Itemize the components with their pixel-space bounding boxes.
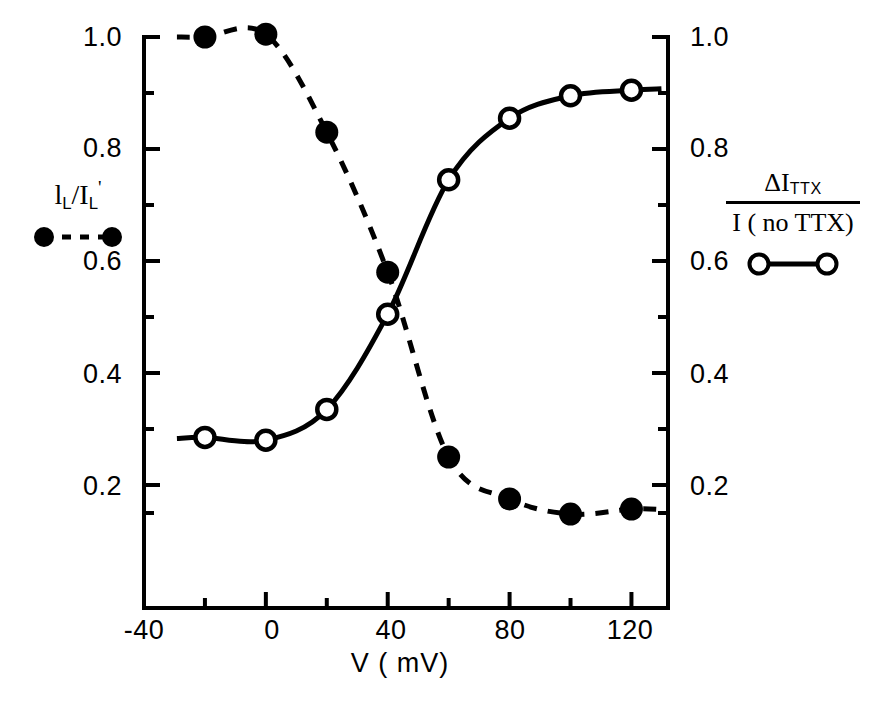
y-tick-label-right: 1.0	[690, 22, 768, 53]
figure-container: 1.0 0.8 0.6 0.4 0.2 1.0 0.8 0.6 0.4 0.2 …	[0, 0, 872, 701]
x-tick-label: 80	[470, 615, 550, 646]
legend-left-sample	[18, 226, 138, 248]
data-point-open	[439, 170, 458, 189]
y-tick-label-right: 0.2	[690, 471, 768, 502]
legend-left-numerator-sub: L	[62, 194, 71, 213]
open-circle-icon	[750, 254, 769, 273]
data-point-filled	[559, 503, 582, 526]
x-tick-label: 0	[232, 615, 312, 646]
data-point-open	[256, 431, 275, 450]
y-tick-label-right: 0.8	[690, 133, 768, 164]
legend-right-sample	[718, 252, 868, 274]
filled-circle-icon	[34, 227, 54, 247]
data-point-open	[500, 109, 519, 128]
data-point-open	[195, 428, 214, 447]
data-point-filled	[254, 23, 277, 46]
plot-canvas	[0, 0, 872, 701]
legend-right-numerator-sub: TTX	[790, 179, 822, 197]
delta-symbol: Δ	[764, 168, 781, 197]
fraction-bar	[726, 201, 860, 204]
x-tick-label: 120	[590, 615, 670, 646]
series-1	[177, 23, 662, 526]
data-point-filled	[437, 446, 460, 469]
x-tick-label: 40	[351, 615, 431, 646]
open-circle-icon	[818, 254, 837, 273]
x-axis-title: V ( mV)	[310, 648, 490, 679]
data-point-filled	[315, 121, 338, 144]
data-point-filled	[620, 498, 643, 521]
y-tick-label-left: 0.8	[44, 133, 122, 164]
data-point-open	[561, 86, 580, 105]
data-point-open	[622, 81, 641, 100]
legend-left-label: lL/IL'	[18, 178, 138, 212]
x-tick-label: -40	[104, 615, 184, 646]
y-tick-label-left: 0.4	[44, 359, 122, 390]
data-series	[177, 23, 662, 526]
data-point-filled	[193, 26, 216, 49]
series-2	[177, 81, 662, 450]
legend-right-numerator: ΔITTX	[718, 168, 868, 198]
data-point-filled	[376, 261, 399, 284]
data-point-filled	[498, 488, 521, 511]
legend-right: ΔITTX I ( no TTX)	[718, 168, 868, 274]
legend-right-current-symbol: I	[781, 168, 790, 197]
data-point-open	[378, 305, 397, 324]
legend-right-denominator: I ( no TTX)	[718, 208, 868, 238]
legend-left: lL/IL'	[18, 178, 138, 248]
y-tick-label-left: 0.2	[44, 471, 122, 502]
legend-left-denominator-sub: L	[89, 194, 98, 213]
legend-left-denominator: I	[79, 179, 88, 210]
data-point-open	[317, 400, 336, 419]
filled-circle-icon	[102, 227, 122, 247]
legend-left-prime: '	[98, 177, 102, 198]
y-tick-label-left: 0.6	[44, 246, 122, 277]
y-tick-label-right: 0.4	[690, 359, 768, 390]
y-tick-label-left: 1.0	[44, 22, 122, 53]
solid-curve	[177, 89, 662, 442]
